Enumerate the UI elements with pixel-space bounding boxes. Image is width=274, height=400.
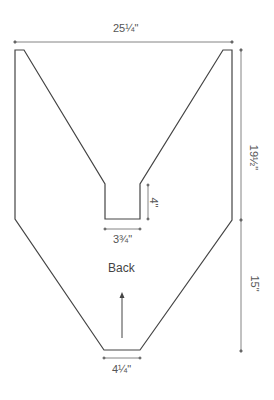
up-arrow-icon xyxy=(120,292,125,338)
neck-depth-label: 4" xyxy=(148,196,159,210)
schematic-diagram: 25¼" 19½" 15" 4" 3¾" Back 4¼" xyxy=(0,0,274,400)
neck-width-dimension-line xyxy=(104,228,141,230)
upper-height-label: 19½" xyxy=(248,145,259,171)
piece-label: Back xyxy=(108,262,135,274)
top-width-dimension-line xyxy=(14,41,233,43)
back-piece-outline xyxy=(15,50,232,350)
schematic-drawing xyxy=(0,0,274,400)
bottom-width-label: 4¼" xyxy=(112,364,131,375)
lower-height-label: 15" xyxy=(249,274,260,294)
bottom-width-dimension-line xyxy=(103,357,141,359)
neck-width-label: 3¾" xyxy=(113,234,132,245)
right-height-dimension-line xyxy=(240,49,242,352)
top-width-label: 25¼" xyxy=(113,23,138,34)
